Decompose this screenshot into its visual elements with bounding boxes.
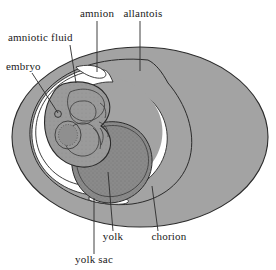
label-amniotic-fluid: amniotic fluid: [8, 31, 73, 43]
amniotic-egg-figure: amnion allantois amniotic fluid embryo y…: [0, 0, 276, 270]
diagram-canvas: amnion allantois amniotic fluid embryo y…: [0, 0, 276, 270]
label-amnion: amnion: [80, 7, 114, 19]
label-chorion: chorion: [151, 230, 186, 242]
label-allantois: allantois: [123, 7, 162, 19]
label-embryo: embryo: [6, 60, 41, 72]
embryo-vesicle-inner: [59, 125, 78, 146]
label-yolk: yolk: [103, 230, 124, 242]
label-yolk-sac: yolk sac: [75, 253, 113, 265]
